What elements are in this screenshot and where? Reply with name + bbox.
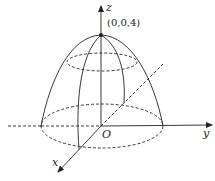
apex-point — [99, 33, 103, 37]
front-meridian — [78, 35, 101, 149]
paraboloid-outline — [41, 35, 163, 126]
y-axis-label: y — [203, 128, 209, 139]
z-axis-label: z — [106, 2, 112, 13]
hidden-axis-line — [101, 64, 163, 126]
upper-ellipse — [67, 53, 137, 71]
apex-coordinate-label: (0,0,4) — [107, 18, 140, 28]
y-axis — [101, 125, 212, 126]
back-meridian — [101, 35, 124, 103]
x-axis-label: x — [52, 157, 58, 168]
origin-label: O — [102, 129, 111, 140]
paraboloid-diagram: z (0,0,4) y O x — [0, 0, 215, 181]
x-axis — [58, 126, 101, 172]
